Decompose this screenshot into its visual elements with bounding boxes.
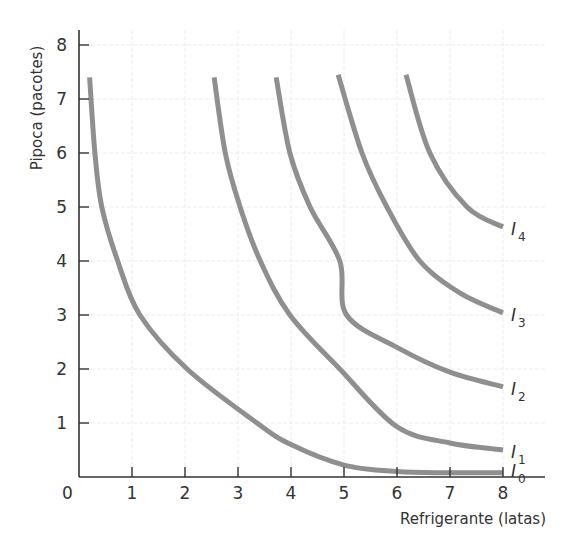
y-tick-label: 6 bbox=[56, 143, 67, 163]
curve-i1 bbox=[214, 77, 503, 450]
y-axis-label: Pipoca (pacotes) bbox=[28, 46, 46, 171]
axes bbox=[79, 30, 545, 477]
x-tick-label: 4 bbox=[286, 483, 297, 503]
x-tick-label: 8 bbox=[498, 483, 509, 503]
curve-label-i2: I2 bbox=[511, 379, 526, 404]
y-tick-label: 5 bbox=[56, 197, 67, 217]
y-tick-label: 3 bbox=[56, 305, 67, 325]
x-tick-label: 6 bbox=[392, 483, 403, 503]
x-tick-label: 3 bbox=[233, 483, 244, 503]
curve-labels: I0I1I2I3I4 bbox=[511, 219, 526, 486]
x-tick-label: 5 bbox=[339, 483, 350, 503]
y-ticks: 12345678 bbox=[56, 35, 89, 433]
curve-i0 bbox=[90, 77, 503, 472]
x-axis-label: Refrigerante (latas) bbox=[400, 510, 546, 528]
curve-i3 bbox=[338, 75, 503, 313]
origin-label: 0 bbox=[62, 483, 73, 503]
indifference-curves bbox=[90, 75, 503, 473]
x-tick-label: 7 bbox=[445, 483, 456, 503]
y-tick-label: 7 bbox=[56, 89, 67, 109]
curve-i4 bbox=[406, 75, 503, 227]
x-tick-label: 1 bbox=[127, 483, 138, 503]
y-tick-label: 2 bbox=[56, 359, 67, 379]
x-tick-label: 2 bbox=[180, 483, 191, 503]
curve-label-i4: I4 bbox=[511, 219, 526, 244]
y-tick-label: 8 bbox=[56, 35, 67, 55]
y-tick-label: 4 bbox=[56, 251, 67, 271]
indifference-curves-chart: 12345678 12345678 I0I1I2I3I4 0 Refrigera… bbox=[0, 0, 571, 539]
y-tick-label: 1 bbox=[56, 413, 67, 433]
grid-lines bbox=[79, 30, 545, 477]
curve-label-i3: I3 bbox=[511, 305, 526, 330]
